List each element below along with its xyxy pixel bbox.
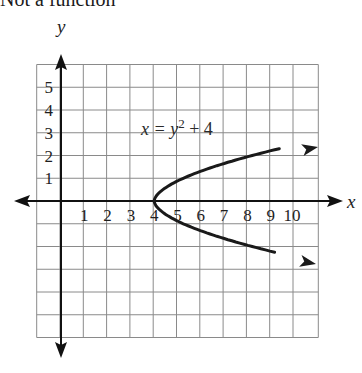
x-tick-label: 9 xyxy=(266,206,275,225)
equation-lhs: x = y xyxy=(140,119,178,139)
y-tick-label: 5 xyxy=(45,78,54,97)
y-tick-label: 3 xyxy=(45,124,54,143)
y-axis xyxy=(55,54,67,358)
curve-upper-arrow-icon xyxy=(301,144,318,156)
x-tick-label: 8 xyxy=(243,206,252,225)
x-tick-labels: 12345678910 xyxy=(80,206,300,225)
y-tick-labels: 12345 xyxy=(45,78,54,188)
equation-label: x = y2 + 4 xyxy=(140,116,213,139)
equation-rhs: + 4 xyxy=(185,119,213,139)
coordinate-plane: x y 12345678910 12345 x = y2 + 4 xyxy=(0,0,362,373)
x-tick-label: 2 xyxy=(103,206,112,225)
y-tick-label: 2 xyxy=(45,147,54,166)
y-tick-label: 4 xyxy=(45,101,54,120)
x-axis-label: x xyxy=(346,191,356,212)
x-tick-label: 7 xyxy=(220,206,229,225)
x-tick-label: 6 xyxy=(197,206,206,225)
x-tick-label: 3 xyxy=(127,206,136,225)
y-axis-label: y xyxy=(55,16,66,37)
y-tick-label: 1 xyxy=(45,169,54,188)
x-tick-label: 10 xyxy=(284,206,301,225)
curve-lower-arrow-icon xyxy=(299,255,316,267)
x-tick-label: 1 xyxy=(80,206,89,225)
